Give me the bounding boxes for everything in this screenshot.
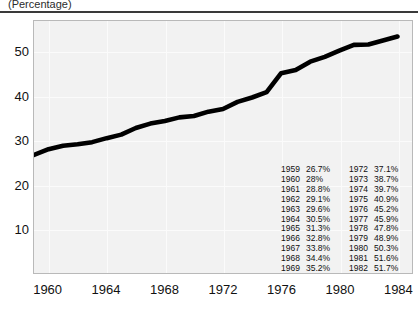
data-label-column: 197237.1%197338.7%197439.7%197540.9%1976… — [349, 165, 398, 274]
data-label-table: 195926.7%196028%196128.8%196229.1%196329… — [281, 165, 398, 274]
chart-title: (Percentage) — [8, 0, 72, 11]
x-tick-label: 1980 — [325, 282, 354, 297]
y-tick-label: 20 — [3, 179, 29, 192]
y-tick-label: 40 — [3, 90, 29, 103]
y-tick-label: 30 — [3, 134, 29, 147]
x-tick-label: 1972 — [209, 282, 238, 297]
x-axis: 1960196419681972197619801984 — [33, 282, 413, 302]
x-tick-label: 1960 — [33, 282, 62, 297]
header-divider — [0, 11, 418, 13]
plot-area: 195926.7%196028%196128.8%196229.1%196329… — [33, 20, 413, 274]
x-tick-label: 1964 — [92, 282, 121, 297]
y-axis: 5040302010 — [0, 20, 29, 274]
data-label-column: 195926.7%196028%196128.8%196229.1%196329… — [281, 165, 330, 274]
series-line-percentage — [34, 36, 397, 154]
x-tick-label: 1984 — [384, 282, 413, 297]
y-tick-label: 50 — [3, 45, 29, 58]
x-tick-label: 1968 — [150, 282, 179, 297]
y-tick-label: 10 — [3, 223, 29, 236]
x-tick-label: 1976 — [267, 282, 296, 297]
